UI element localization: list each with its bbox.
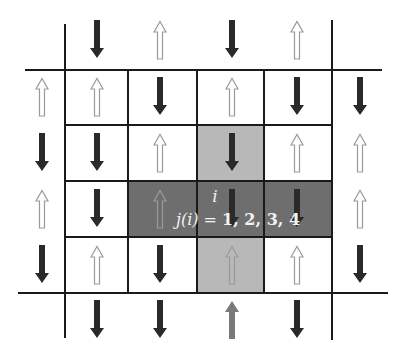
grid-line-h3 [65, 236, 332, 238]
grid-line-v2 [196, 70, 198, 293]
spin-down-arrow-icon [290, 77, 304, 117]
spin-up-arrow-icon [153, 189, 167, 229]
spin-down-arrow-icon [153, 245, 167, 285]
spin-down-arrow-icon [290, 300, 304, 340]
grid-line-h0 [25, 69, 382, 71]
spin-up-arrow-icon [353, 189, 367, 229]
grid-line-v0 [64, 24, 66, 338]
spin-up-arrow-icon [290, 20, 304, 60]
spin-up-arrow-icon [225, 245, 239, 285]
grid-line-v3 [263, 70, 265, 293]
spin-up-arrow-icon [90, 77, 104, 117]
spin-down-arrow-icon [225, 133, 239, 173]
spin-up-arrow-icon [290, 133, 304, 173]
spin-down-arrow-icon [153, 77, 167, 117]
spin-down-arrow-icon [353, 77, 367, 117]
spin-up-arrow-icon [90, 245, 104, 285]
spin-up-arrow-icon [290, 245, 304, 285]
site-label: i [205, 186, 225, 206]
spin-down-arrow-icon [90, 20, 104, 60]
spin-down-arrow-icon [353, 245, 367, 285]
spin-up-arrow-icon [225, 300, 239, 340]
spin-down-arrow-icon [90, 300, 104, 340]
spin-up-arrow-icon [35, 77, 49, 117]
spin-down-arrow-icon [153, 300, 167, 340]
spin-up-arrow-icon [353, 133, 367, 173]
neighbor-label-prefix: j(i) = [176, 210, 222, 229]
neighbor-label: j(i) = 1, 2, 3, 4 [168, 210, 308, 229]
neighbor-label-values: 1, 2, 3, 4 [222, 210, 300, 229]
spin-down-arrow-icon [90, 189, 104, 229]
grid-line-h2 [65, 180, 332, 182]
spin-up-arrow-icon [153, 133, 167, 173]
grid-line-h1 [65, 124, 332, 126]
grid-line-v4 [331, 20, 333, 340]
spin-up-arrow-icon [35, 189, 49, 229]
spin-down-arrow-icon [225, 20, 239, 60]
spin-up-arrow-icon [153, 20, 167, 60]
grid-line-v1 [127, 70, 129, 293]
lattice-diagram: i j(i) = 1, 2, 3, 4 [0, 0, 407, 355]
spin-down-arrow-icon [35, 245, 49, 285]
spin-down-arrow-icon [90, 133, 104, 173]
spin-down-arrow-icon [35, 133, 49, 173]
spin-up-arrow-icon [225, 77, 239, 117]
